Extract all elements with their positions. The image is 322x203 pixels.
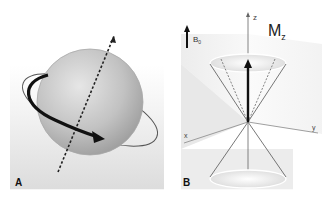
sphere: [37, 49, 143, 155]
panel-b: z x y Mz B0 B: [181, 4, 322, 194]
panel-a: A: [10, 10, 164, 194]
spinning-sphere-diagram: A: [10, 10, 164, 194]
y-axis-label: y: [312, 124, 316, 132]
panel-label-a: A: [15, 177, 22, 188]
panel-label-b: B: [183, 177, 190, 188]
lower-cone-rim: [210, 170, 286, 188]
z-axis-label: z: [253, 13, 257, 22]
precession-cone-diagram: z x y Mz B0 B: [181, 4, 322, 194]
x-axis-label: x: [184, 132, 188, 139]
